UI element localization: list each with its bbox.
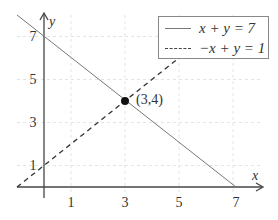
svg-text:1: 1	[68, 195, 75, 210]
point-label: (3,4)	[136, 92, 163, 108]
legend-item-dashed: −x + y = 1	[165, 38, 265, 58]
svg-text:3: 3	[122, 195, 129, 210]
legend-label: x + y = 7	[199, 20, 255, 37]
x-tick-labels: 1 3 5 7	[68, 195, 240, 210]
legend-item-solid: x + y = 7	[165, 18, 255, 38]
svg-text:7: 7	[233, 195, 240, 210]
intersection-point	[121, 97, 129, 105]
solid-line-swatch-icon	[165, 28, 191, 29]
svg-text:3: 3	[30, 115, 37, 130]
legend: x + y = 7 −x + y = 1	[158, 16, 269, 59]
svg-text:7: 7	[30, 29, 37, 44]
dashed-line-swatch-icon	[165, 48, 191, 49]
svg-text:1: 1	[30, 158, 37, 173]
y-tick-labels: 1 3 5 7	[30, 29, 37, 173]
x-axis-label: x	[251, 168, 259, 183]
y-axis-label: y	[47, 14, 56, 29]
legend-label: −x + y = 1	[199, 40, 265, 57]
svg-text:5: 5	[30, 72, 37, 87]
svg-text:5: 5	[176, 195, 183, 210]
